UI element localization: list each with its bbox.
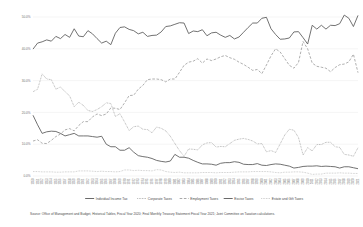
x-axis-tick-label: 1962 bbox=[86, 178, 90, 184]
x-axis-tick-label: 2018 bbox=[342, 178, 346, 184]
x-axis-tick-label: 2014 bbox=[324, 178, 328, 184]
x-axis-tick-label: 1993 bbox=[228, 178, 232, 184]
y-axis-tick-label: 10.0% bbox=[22, 142, 31, 146]
series-line-corporate-taxes bbox=[33, 74, 358, 156]
x-axis-tick-label: 1951 bbox=[36, 178, 40, 184]
x-axis-tick-label: 1978 bbox=[159, 178, 163, 184]
x-axis-tick-label: 1955 bbox=[54, 178, 58, 184]
x-axis-tick-label: 1958 bbox=[68, 178, 72, 184]
y-axis-tick-labels: 50.0%40.0%30.0%20.0%10.0%0.0% bbox=[22, 15, 31, 178]
y-axis-tick-label: 0.0% bbox=[23, 174, 30, 178]
y-axis-tick-label: 20.0% bbox=[22, 111, 31, 115]
x-axis-tick-label: 1976 bbox=[150, 178, 154, 184]
x-axis-tick-label: 1963 bbox=[91, 178, 95, 184]
legend-label: Corporate Taxes bbox=[148, 197, 172, 201]
x-axis-tick-label: 2009 bbox=[301, 178, 305, 184]
x-axis-tick-label: 1952 bbox=[40, 178, 44, 184]
x-axis-tick-label: 1977 bbox=[155, 178, 159, 184]
x-axis-tick-label: 2003 bbox=[274, 178, 278, 184]
source-text: Source: Office of Management and Budget,… bbox=[30, 212, 275, 216]
x-axis-tick-label: 1971 bbox=[127, 178, 131, 184]
series-line-employment-taxes bbox=[33, 41, 358, 143]
x-axis-tick-label: 2002 bbox=[269, 178, 273, 184]
x-axis-tick-label: 1975 bbox=[145, 178, 149, 184]
x-axis-tick-label: 1972 bbox=[132, 178, 136, 184]
x-axis-tick-label: 2008 bbox=[296, 178, 300, 184]
x-axis-tick-label: 2006 bbox=[287, 178, 291, 184]
x-axis-tick-label: 2010 bbox=[306, 178, 310, 184]
chart-page: 50.0%40.0%30.0%20.0%10.0%0.0% 1950195119… bbox=[0, 0, 363, 227]
x-axis-tick-label: 2001 bbox=[264, 178, 268, 184]
tax-revenue-line-chart: 50.0%40.0%30.0%20.0%10.0%0.0% 1950195119… bbox=[0, 0, 363, 227]
x-axis-tick-label: 1953 bbox=[45, 178, 49, 184]
chart-legend: Individual Income TaxCorporate TaxesEmpl… bbox=[85, 197, 303, 201]
x-axis-tick-label: 1956 bbox=[58, 178, 62, 184]
x-axis-tick-label: 1980 bbox=[168, 178, 172, 184]
x-axis-tick-label: 2021 bbox=[356, 178, 360, 184]
chart-container: 50.0%40.0%30.0%20.0%10.0%0.0% 1950195119… bbox=[0, 0, 363, 227]
x-axis-tick-label: 2007 bbox=[292, 178, 296, 184]
x-axis-tick-label: 2015 bbox=[329, 178, 333, 184]
x-axis-tick-label: 2019 bbox=[347, 178, 351, 184]
x-axis-tick-label: 1984 bbox=[187, 178, 191, 184]
gridlines bbox=[33, 17, 358, 176]
x-axis-tick-label: 1960 bbox=[77, 178, 81, 184]
legend-label: Estate and Gift Taxes bbox=[272, 197, 304, 201]
x-axis-tick-label: 1959 bbox=[72, 178, 76, 184]
x-axis-tick-label: 1968 bbox=[113, 178, 117, 184]
x-axis-tick-label: 1964 bbox=[95, 178, 99, 184]
x-axis-tick-label: 2012 bbox=[315, 178, 319, 184]
x-axis-tick-label: 2005 bbox=[283, 178, 287, 184]
x-axis-tick-label: 1973 bbox=[136, 178, 140, 184]
x-axis-tick-label: 2020 bbox=[351, 178, 355, 184]
x-axis-tick-labels: 1950195119521953195419551956195719581959… bbox=[31, 178, 360, 184]
x-axis-tick-label: 2011 bbox=[310, 178, 314, 184]
x-axis-tick-label: 1983 bbox=[182, 178, 186, 184]
x-axis-tick-label: 1995 bbox=[237, 178, 241, 184]
x-axis-tick-label: 1994 bbox=[232, 178, 236, 184]
legend-label: Individual Income Tax bbox=[96, 197, 128, 201]
x-axis-tick-label: 2013 bbox=[319, 178, 323, 184]
x-axis-tick-label: 1966 bbox=[104, 178, 108, 184]
x-axis-tick-label: 1990 bbox=[214, 178, 218, 184]
x-axis-tick-label: 1992 bbox=[223, 178, 227, 184]
x-axis-tick-label: 1999 bbox=[255, 178, 259, 184]
x-axis-tick-label: 1965 bbox=[100, 178, 104, 184]
x-axis-tick-label: 1982 bbox=[177, 178, 181, 184]
x-axis-tick-label: 2004 bbox=[278, 178, 282, 184]
x-axis-tick-label: 1998 bbox=[251, 178, 255, 184]
x-axis-tick-label: 1969 bbox=[118, 178, 122, 184]
x-axis-tick-label: 1981 bbox=[173, 178, 177, 184]
x-axis-tick-label: 1961 bbox=[81, 178, 85, 184]
x-axis-tick-label: 1986 bbox=[196, 178, 200, 184]
x-axis-tick-label: 1970 bbox=[123, 178, 127, 184]
x-axis-tick-label: 1967 bbox=[109, 178, 113, 184]
x-axis-tick-label: 1987 bbox=[200, 178, 204, 184]
x-axis-tick-label: 2016 bbox=[333, 178, 337, 184]
x-axis-tick-label: 1989 bbox=[210, 178, 214, 184]
y-axis-tick-label: 50.0% bbox=[22, 15, 31, 19]
y-axis-tick-label: 40.0% bbox=[22, 47, 31, 51]
legend-label: Employment Taxes bbox=[190, 197, 218, 201]
x-axis-tick-label: 1996 bbox=[242, 178, 246, 184]
x-axis-tick-label: 1988 bbox=[205, 178, 209, 184]
legend-label: Excise Taxes bbox=[234, 197, 254, 201]
x-axis-tick-label: 2017 bbox=[338, 178, 342, 184]
x-axis-tick-label: 1974 bbox=[141, 178, 145, 184]
series-line-excise-taxes bbox=[33, 115, 358, 168]
series-line-estate-and-gift-taxes bbox=[33, 170, 358, 175]
x-axis-tick-label: 2000 bbox=[260, 178, 264, 184]
x-axis-tick-label: 1957 bbox=[63, 178, 67, 184]
x-axis-tick-label: 1950 bbox=[31, 178, 35, 184]
series-lines bbox=[33, 15, 358, 174]
x-axis-tick-label: 1991 bbox=[219, 178, 223, 184]
x-axis-tick-label: 1954 bbox=[49, 178, 53, 184]
x-axis-tick-label: 1985 bbox=[191, 178, 195, 184]
x-axis-tick-label: 1979 bbox=[164, 178, 168, 184]
series-line-individual-income-tax bbox=[33, 15, 358, 49]
x-axis-tick-label: 1997 bbox=[246, 178, 250, 184]
y-axis-tick-label: 30.0% bbox=[22, 79, 31, 83]
source-footnote: Source: Office of Management and Budget,… bbox=[30, 212, 275, 216]
